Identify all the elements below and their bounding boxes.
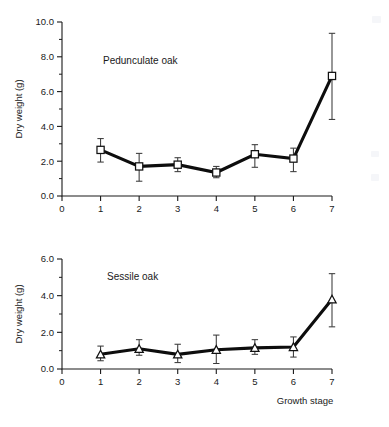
x-axis-title: Growth stage (277, 395, 334, 406)
x-tick-label: 1 (98, 376, 103, 387)
data-point-square (290, 155, 297, 162)
scan-artifact (372, 16, 381, 23)
scan-artifact (371, 174, 379, 181)
y-tick-label: 6.0 (41, 86, 54, 97)
y-tick-label: 2.0 (41, 327, 54, 338)
y-tick-label: 4.0 (41, 290, 54, 301)
data-point-square (328, 72, 335, 79)
y-axis-title: Dry weight (g) (13, 79, 24, 138)
x-tick-label: 4 (214, 203, 219, 214)
x-tick-label: 6 (291, 376, 296, 387)
scan-artifact (371, 151, 379, 157)
y-tick-label: 8.0 (41, 51, 54, 62)
y-tick-label: 4.0 (41, 121, 54, 132)
x-tick-label: 2 (136, 203, 141, 214)
data-point-square (97, 146, 104, 153)
chart-panel-pedunculate-oak: 0.02.04.06.08.010.001234567Dry weight (g… (0, 0, 389, 220)
pedunculate-oak-plot: 0.02.04.06.08.010.001234567Dry weight (g… (0, 0, 389, 220)
x-tick-label: 5 (252, 203, 257, 214)
x-tick-label: 4 (214, 376, 219, 387)
sessile-oak-plot: 0.02.04.06.001234567Dry weight (g)Growth… (0, 220, 389, 427)
series-annotation: Sessile oak (107, 271, 159, 282)
data-point-square (251, 151, 258, 158)
y-axis-title: Dry weight (g) (13, 284, 24, 343)
y-tick-label: 6.0 (41, 253, 54, 264)
data-point-triangle (328, 295, 336, 303)
data-point-square (136, 163, 143, 170)
x-tick-label: 1 (98, 203, 103, 214)
data-point-square (213, 169, 220, 176)
data-point-square (174, 161, 181, 168)
y-tick-label: 2.0 (41, 156, 54, 167)
x-tick-label: 5 (252, 376, 257, 387)
x-tick-label: 7 (329, 376, 334, 387)
chart-panel-sessile-oak: 0.02.04.06.001234567Dry weight (g)Growth… (0, 220, 389, 427)
x-tick-label: 3 (175, 376, 180, 387)
series-annotation: Pedunculate oak (103, 55, 179, 66)
x-tick-label: 3 (175, 203, 180, 214)
y-tick-label: 0.0 (41, 363, 54, 374)
x-tick-label: 2 (136, 376, 141, 387)
x-tick-label: 0 (59, 376, 64, 387)
x-tick-label: 0 (59, 203, 64, 214)
x-tick-label: 7 (329, 203, 334, 214)
y-tick-label: 10.0 (36, 16, 55, 27)
y-tick-label: 0.0 (41, 190, 54, 201)
x-tick-label: 6 (291, 203, 296, 214)
